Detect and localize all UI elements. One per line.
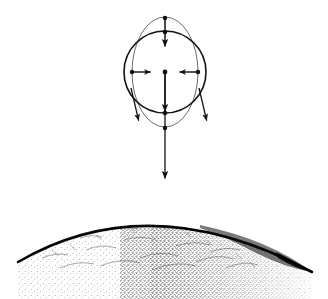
scientific-figure bbox=[0, 0, 328, 299]
figure-root: Tidal deformation diagram with Earth lim… bbox=[0, 0, 328, 299]
